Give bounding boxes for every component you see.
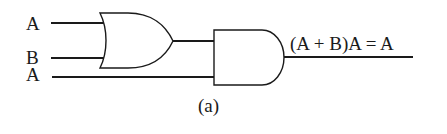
logic-circuit-diagram: A B A (A + B)A = A (a) [0, 0, 447, 134]
output-expression-label: (A + B)A = A [290, 33, 394, 55]
figure-caption: (a) [198, 95, 219, 117]
or-gate [100, 13, 173, 68]
and-gate [214, 30, 284, 85]
input-label-a-top: A [26, 13, 40, 34]
input-label-a-bottom: A [26, 64, 40, 85]
